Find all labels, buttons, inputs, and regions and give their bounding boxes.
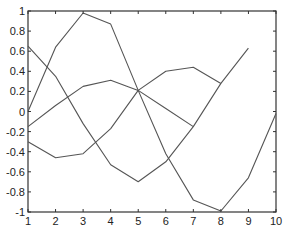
y-tick-label: -0.8: [6, 186, 25, 198]
x-tick-label: 2: [52, 215, 58, 227]
line-series-3: [28, 67, 221, 126]
x-tick-label: 4: [108, 215, 114, 227]
x-tick-label: 9: [245, 215, 251, 227]
y-tick-label: 0: [19, 106, 25, 118]
line-series-2: [28, 46, 248, 182]
x-axis: 12345678910: [25, 11, 282, 227]
x-tick-label: 5: [135, 215, 141, 227]
y-tick-label: -0.6: [6, 166, 25, 178]
series-layer: [28, 13, 276, 211]
y-tick-label: 0.2: [10, 85, 25, 97]
plot-area: [28, 11, 276, 212]
y-tick-label: -0.2: [6, 126, 25, 138]
x-tick-label: 8: [218, 215, 224, 227]
x-tick-label: 3: [80, 215, 86, 227]
line-series-1: [28, 13, 276, 211]
x-tick-label: 6: [163, 215, 169, 227]
plot-frame: [28, 11, 276, 212]
y-tick-label: -1: [15, 206, 25, 218]
y-axis: 10.80.60.40.20-0.2-0.4-0.6-0.8-1: [6, 5, 276, 218]
y-tick-label: 0.4: [10, 65, 25, 77]
line-series-4: [28, 90, 193, 157]
y-tick-label: 0.6: [10, 45, 25, 57]
y-tick-label: 1: [19, 5, 25, 17]
x-tick-label: 10: [270, 215, 282, 227]
y-tick-label: -0.4: [6, 146, 25, 158]
x-tick-label: 7: [190, 215, 196, 227]
x-tick-label: 1: [25, 215, 31, 227]
y-tick-label: 0.8: [10, 25, 25, 37]
line-chart: 12345678910 10.80.60.40.20-0.2-0.4-0.6-0…: [0, 0, 289, 230]
